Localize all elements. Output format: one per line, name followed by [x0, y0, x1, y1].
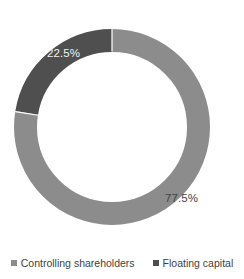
data-label-controlling-shareholders: 77.5% [165, 193, 198, 205]
chart-legend: Controlling shareholders Floating capita… [0, 251, 244, 275]
donut-svg [0, 0, 244, 245]
legend-item-label: Controlling shareholders [21, 258, 135, 269]
chart-plot-area: 22.5% 77.5% [0, 0, 244, 245]
data-label-floating-capital: 22.5% [47, 48, 80, 60]
legend-item-label: Floating capital [163, 258, 234, 269]
legend-item-floating-capital[interactable]: Floating capital [153, 258, 234, 269]
legend-swatch-icon [153, 260, 159, 266]
legend-swatch-icon [11, 260, 17, 266]
donut-chart: 22.5% 77.5% Controlling shareholders Flo… [0, 0, 244, 279]
legend-item-controlling-shareholders[interactable]: Controlling shareholders [11, 258, 135, 269]
